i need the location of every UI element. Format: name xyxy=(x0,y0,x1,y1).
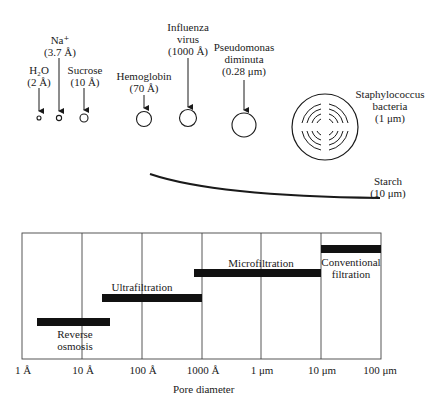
pseudomonas-label: Pseudomonas diminuta (0.28 μm) xyxy=(210,41,278,77)
influenza-particle xyxy=(180,110,197,127)
starch-label: Starch (10 μm) xyxy=(362,175,414,199)
na-particle xyxy=(56,115,61,120)
staphylococcus-particle xyxy=(292,94,358,160)
na-label: Na⁺ (3.7 Å) xyxy=(42,34,78,58)
staphylococcus-label: Staphylococcus bacteria (1 μm) xyxy=(350,88,430,124)
tick-1-micron: 1 μm xyxy=(251,364,274,376)
tick-10-angstrom: 10 Å xyxy=(72,364,94,376)
ultrafiltration-bar xyxy=(102,294,202,302)
microfiltration-label: Microfiltration xyxy=(226,257,296,269)
ultrafiltration-label: Ultrafiltration xyxy=(110,281,174,293)
tick-1000-angstrom: 1000 Å xyxy=(187,364,220,376)
reverse-osmosis-bar xyxy=(37,318,110,326)
sucrose-label: Sucrose (10 Å) xyxy=(64,64,106,88)
pseudomonas-particle xyxy=(232,113,256,137)
tick-1-angstrom: 1 Å xyxy=(15,364,31,376)
h2o-label: H₂O (2 Å) xyxy=(22,64,56,88)
influenza-label: Influenza virus (1000 Å) xyxy=(160,21,216,57)
tick-100-micron: 100 μm xyxy=(363,364,397,376)
tick-100-angstrom: 100 Å xyxy=(129,364,156,376)
hemoglobin-particle xyxy=(137,112,152,127)
starch-particle xyxy=(150,174,380,198)
h2o-particle xyxy=(37,116,41,120)
microfiltration-bar xyxy=(194,269,321,277)
x-axis-title: Pore diameter xyxy=(173,383,234,395)
reverse-osmosis-label: Reverse osmosis xyxy=(50,328,100,352)
conventional-filtration-bar xyxy=(321,245,381,253)
conventional-filtration-label: Conventional filtration xyxy=(320,256,382,280)
tick-10-micron: 10 μm xyxy=(308,364,336,376)
sucrose-particle xyxy=(80,114,88,122)
hemoglobin-label: Hemoglobin (70 Å) xyxy=(114,70,174,94)
